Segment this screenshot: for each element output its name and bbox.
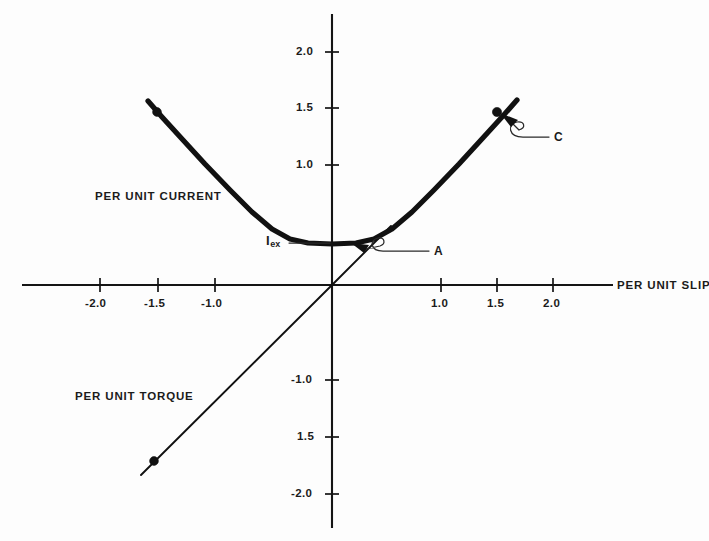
iex-label-subscript: ex <box>270 239 280 249</box>
xtick-label-neg-1-5: -1.5 <box>144 297 165 309</box>
callout-label-a: A <box>434 244 443 258</box>
ytick-label-neg-1-0: -1.0 <box>291 373 312 385</box>
marker-current-right-c <box>492 107 501 116</box>
series-label-per-unit-torque: PER UNIT TORQUE <box>75 390 194 402</box>
marker-current-left <box>153 108 162 117</box>
figure-container: -2.0 -1.5 -1.0 1.0 1.5 2.0 2.0 1.5 1.0 -… <box>0 0 709 541</box>
ytick-label-pos-1-0: 1.0 <box>296 158 313 170</box>
xtick-label-pos-1-5: 1.5 <box>487 297 504 309</box>
x-axis-title: PER UNIT SLIP <box>617 279 709 291</box>
plot-canvas <box>0 0 709 541</box>
axes-group <box>22 14 613 528</box>
marker-torque-left <box>150 457 159 466</box>
xtick-label-neg-2-0: -2.0 <box>85 297 106 309</box>
series-label-per-unit-current: PER UNIT CURRENT <box>95 190 222 202</box>
xtick-label-pos-1-0: 1.0 <box>431 297 448 309</box>
callout-c-group <box>500 113 549 137</box>
callout-c-squiggle-leader <box>510 122 549 137</box>
series-per-unit-torque <box>141 226 391 475</box>
iex-label: Iex <box>266 234 280 247</box>
ytick-label-neg-2-0: -2.0 <box>291 487 312 499</box>
callout-label-c: C <box>554 130 563 144</box>
xtick-label-neg-1-0: -1.0 <box>201 297 222 309</box>
ytick-label-pos-1-5: 1.5 <box>296 101 313 113</box>
xtick-label-pos-2-0: 2.0 <box>543 297 560 309</box>
ytick-label-neg-1-5: 1.5 <box>297 430 314 442</box>
ytick-label-pos-2-0: 2.0 <box>296 45 313 57</box>
